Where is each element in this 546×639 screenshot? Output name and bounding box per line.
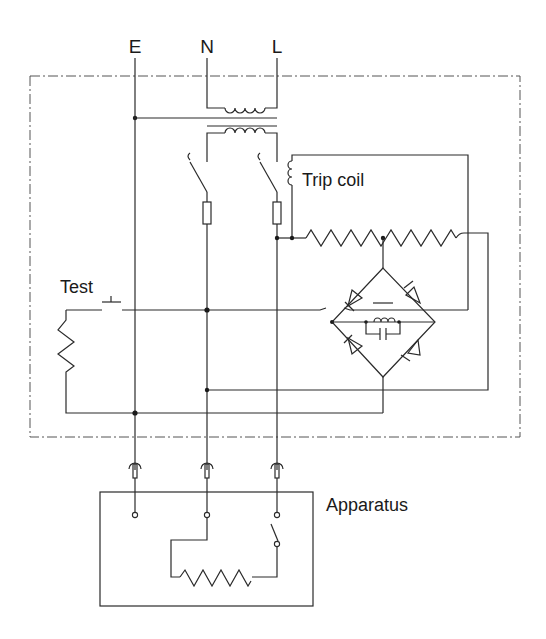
apparatus-switch [271, 524, 280, 547]
apparatus-neutral-wire [171, 518, 207, 577]
resistor-1 [306, 230, 386, 246]
inductor-capacitor [364, 318, 401, 340]
junction-dot [205, 388, 209, 392]
transformer-secondary [207, 128, 277, 162]
junction-dot [290, 236, 294, 240]
test-circuit [58, 296, 468, 416]
apparatus-live-wire [252, 547, 277, 577]
outer-return-loop [207, 233, 488, 390]
diode-icon [401, 340, 420, 361]
junction-dot [275, 236, 279, 240]
terminal-earth [132, 512, 137, 517]
terminal-neutral [204, 512, 209, 517]
label-neutral: N [200, 36, 214, 57]
transformer-primary [207, 58, 277, 113]
apparatus-label: Apparatus [326, 495, 408, 515]
test-label: Test [60, 277, 93, 297]
neutral-fuse [203, 202, 211, 224]
circuit-diagram: E N L Trip coil [0, 0, 546, 639]
live-fuse [273, 202, 281, 224]
label-live: L [272, 36, 283, 57]
apparatus-heater [180, 570, 251, 586]
plug-connectors [129, 463, 283, 514]
breaker-enclosure [30, 76, 520, 437]
resistor-2 [386, 230, 456, 246]
diode-bridge [330, 238, 435, 413]
trip-coil-label: Trip coil [302, 170, 364, 190]
neutral-switch [188, 153, 207, 202]
live-switch [258, 153, 277, 202]
label-earth: E [129, 36, 142, 57]
terminal-live [274, 512, 279, 517]
